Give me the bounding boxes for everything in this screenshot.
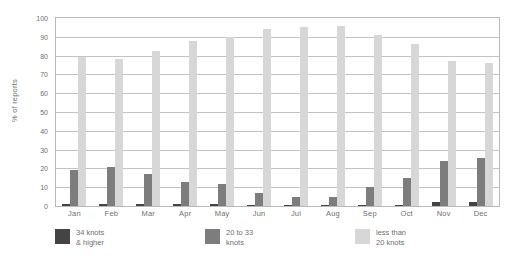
bar [477, 158, 485, 206]
bar [440, 161, 448, 206]
bar-group [462, 18, 499, 206]
bar [411, 44, 419, 206]
x-tick-label: Apr [167, 209, 204, 218]
x-tick-label: Feb [93, 209, 130, 218]
legend-label: less than 20 knots [376, 228, 406, 247]
bar [78, 57, 86, 206]
bar [226, 37, 234, 206]
bar [136, 204, 144, 206]
x-tick-label: May [204, 209, 241, 218]
y-axis-ticks: 1009080706050403020100 [0, 17, 52, 207]
bar [62, 204, 70, 206]
bar [218, 184, 226, 206]
y-tick-label: 40 [40, 127, 48, 134]
bar [329, 197, 337, 206]
y-tick-label: 30 [40, 146, 48, 153]
bar [284, 205, 292, 206]
bar-group [314, 18, 351, 206]
bar-group [56, 18, 93, 206]
y-tick-label: 90 [40, 33, 48, 40]
x-tick-label: Oct [388, 209, 425, 218]
bar [99, 204, 107, 206]
y-tick-label: 50 [40, 109, 48, 116]
x-tick-label: Aug [314, 209, 351, 218]
bar-group [204, 18, 241, 206]
legend-item: 20 to 33 knots [205, 228, 355, 247]
x-tick-label: Jul [278, 209, 315, 218]
bar [300, 27, 308, 206]
bar [374, 35, 382, 206]
bar [263, 29, 271, 206]
bar [292, 197, 300, 206]
bar [337, 26, 345, 206]
bar [70, 170, 78, 206]
bar [152, 51, 160, 206]
x-tick-label: Mar [130, 209, 167, 218]
bar-group [241, 18, 278, 206]
bar [107, 167, 115, 206]
bar-group [425, 18, 462, 206]
y-tick-label: 0 [44, 203, 48, 210]
y-tick-label: 60 [40, 90, 48, 97]
bar [173, 204, 181, 206]
bar [181, 182, 189, 206]
y-tick-label: 80 [40, 52, 48, 59]
legend-label: 34 knots & higher [76, 228, 104, 247]
legend-swatch [205, 229, 220, 244]
bar [469, 202, 477, 206]
legend-item: 34 knots & higher [55, 228, 205, 247]
bar [366, 187, 374, 206]
bar-groups [56, 18, 499, 206]
y-tick-label: 70 [40, 71, 48, 78]
legend-item: less than 20 knots [355, 228, 505, 247]
x-tick-label: Jun [241, 209, 278, 218]
bar [395, 205, 403, 206]
bar [189, 41, 197, 206]
legend-label: 20 to 33 knots [226, 228, 253, 247]
x-tick-label: Dec [462, 209, 499, 218]
bar [485, 63, 493, 206]
chart-legend: 34 knots & higher20 to 33 knotsless than… [55, 228, 505, 247]
bar [115, 59, 123, 206]
bar [255, 193, 263, 206]
bar [358, 205, 366, 206]
bar [321, 205, 329, 206]
x-tick-label: Nov [425, 209, 462, 218]
y-tick-label: 20 [40, 165, 48, 172]
bar [403, 178, 411, 206]
bar-group [130, 18, 167, 206]
y-tick-label: 100 [36, 15, 48, 22]
bar-chart: % of reports 1009080706050403020100 JanF… [0, 0, 513, 266]
bar [210, 204, 218, 206]
y-tick-label: 10 [40, 184, 48, 191]
legend-swatch [355, 229, 370, 244]
bar-group [351, 18, 388, 206]
bar [247, 205, 255, 206]
bar-group [167, 18, 204, 206]
bar [144, 174, 152, 206]
bar-group [388, 18, 425, 206]
x-axis-ticks: JanFebMarAprMayJunJulAugSepOctNovDec [56, 209, 499, 218]
bar-group [93, 18, 130, 206]
bar [432, 202, 440, 206]
bar-group [278, 18, 315, 206]
x-tick-label: Sep [351, 209, 388, 218]
x-tick-label: Jan [56, 209, 93, 218]
bar [448, 61, 456, 206]
legend-swatch [55, 229, 70, 244]
